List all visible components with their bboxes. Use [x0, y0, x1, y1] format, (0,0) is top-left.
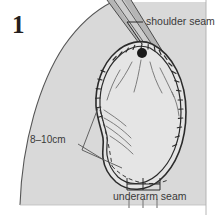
- shoulder-seam-label: shoulder seam: [146, 15, 215, 27]
- underarm-seam-label: underarm seam: [113, 190, 187, 202]
- measurement-label: 8–10cm: [30, 134, 66, 145]
- figure-container: 1 shoulder seam 8–10cm underarm seam: [0, 0, 222, 215]
- shoulder-point-dot: [137, 48, 147, 58]
- figure-number: 1: [12, 12, 25, 37]
- armhole-diagram-illustration: [0, 0, 222, 215]
